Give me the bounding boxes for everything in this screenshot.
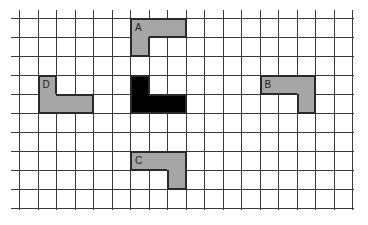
shape-label-a: A [135,23,142,33]
grid-diagram: ADBC [0,0,368,225]
shape-cell [297,94,317,114]
shape-cell [130,75,150,95]
shape-cell [167,151,187,171]
shape-cell [56,94,76,114]
shape-cell [167,18,187,38]
grid-line-vertical [241,10,242,210]
grid-line-vertical [260,10,261,210]
grid-line-vertical [278,10,279,210]
shape-label-c: C [135,156,142,166]
grid-line-horizontal [11,208,354,209]
shape-cell [167,170,187,190]
grid-line-vertical [223,10,224,210]
shape-cell [167,94,187,114]
shape-cell [38,94,58,114]
shape-label-d: D [43,80,50,90]
grid-line-vertical [19,10,20,210]
shape-cell [149,94,169,114]
shape-cell [130,94,150,114]
grid-line-horizontal [11,56,354,57]
shape-cell [130,37,150,57]
grid-line-vertical [352,10,353,210]
shape-cell [149,151,169,171]
shape-cell [278,75,298,95]
shape-cell [297,75,317,95]
grid-line-vertical [334,10,335,210]
shape-label-b: B [265,80,272,90]
grid-line-vertical [204,10,205,210]
shape-cell [149,18,169,38]
grid-line-horizontal [11,132,354,133]
shape-cell [75,94,95,114]
grid-line-vertical [112,10,113,210]
